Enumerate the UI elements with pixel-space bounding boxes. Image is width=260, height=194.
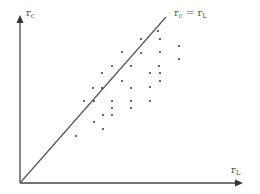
data-point — [121, 80, 123, 82]
data-point — [102, 128, 104, 130]
axes — [17, 15, 244, 187]
data-point — [157, 30, 159, 32]
data-point — [111, 107, 113, 109]
data-point — [149, 72, 151, 74]
data-point — [130, 87, 132, 89]
data-point — [159, 80, 161, 82]
data-point — [101, 87, 103, 89]
data-point — [93, 100, 95, 102]
x-axis-label: rL — [231, 165, 240, 177]
data-point — [111, 65, 113, 67]
scatter-chart — [0, 0, 260, 194]
data-point — [121, 51, 123, 53]
data-point — [149, 100, 151, 102]
data-point — [159, 72, 161, 74]
reference-line-45deg — [20, 17, 166, 183]
y-axis-label: rc — [26, 8, 35, 20]
data-point — [159, 38, 161, 40]
data-point — [93, 121, 95, 123]
data-point — [159, 51, 161, 53]
data-point — [101, 72, 103, 74]
data-point — [130, 107, 132, 109]
data-point — [83, 100, 85, 102]
data-point — [130, 65, 132, 67]
reference-line-label: rc = rL — [174, 8, 207, 20]
data-point — [130, 100, 132, 102]
data-point — [111, 100, 113, 102]
data-point — [178, 45, 180, 47]
y-axis-arrow-icon — [17, 15, 24, 23]
data-point — [158, 65, 160, 67]
x-axis-arrow-icon — [235, 180, 243, 187]
data-point — [140, 52, 142, 54]
data-point — [140, 38, 142, 40]
scatter-points — [75, 30, 180, 137]
data-point — [92, 87, 94, 89]
data-point — [75, 135, 77, 137]
data-point — [149, 86, 151, 88]
data-point — [111, 114, 113, 116]
data-point — [178, 58, 180, 60]
data-point — [102, 114, 104, 116]
